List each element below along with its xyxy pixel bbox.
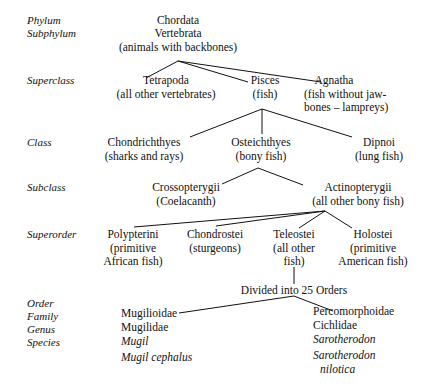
node-mugil-cephalus-species: Mugil cephalus [121,351,192,365]
node-vertebrata-note: (animals with backbones) [119,41,237,55]
node-vertebrata: Vertebrata [154,27,201,41]
node-teleostei-name: Teleostei [273,228,315,242]
node-mugil-genus: Mugil [121,335,148,349]
node-polypterini-note-1: (primitive [103,242,162,256]
node-polypterini-note-2: African fish) [103,255,162,269]
node-polypterini-name: Polypterini [103,228,162,242]
node-actinopterygii: Actinopterygii (all other bony fish) [312,181,404,208]
node-percomorphoidae: Percomorphoidae [313,305,394,319]
edge-actinopterygii-to-polypterini [134,211,325,227]
node-sarotherodon-nilotica-line-1: Sarotherodon [313,349,375,363]
node-crossopterygii-name: Crossopterygii [152,181,220,195]
node-mugilidae: Mugilidae [121,321,168,335]
node-chordata: Chordata [157,14,199,28]
node-dipnoi: Dipnoi (lung fish) [355,136,403,163]
edge-actinopterygii-to-holostei [325,211,352,228]
node-sarotherodon-nilotica-line-2: nilotica [313,363,375,377]
rank-label-class: Class [27,136,51,149]
node-divided-into-orders: Divided into 25 Orders [241,284,347,298]
node-tetrapoda: Tetrapoda (all other vertebrates) [117,74,216,101]
node-teleostei-note-2: fish) [273,255,315,269]
edge-actinopterygii-to-teleostei [299,211,325,228]
node-mugilioidae: Mugilioidae [121,307,177,321]
rank-label-superclass: Superclass [27,74,74,87]
rank-label-family: Family [27,310,58,323]
node-tetrapoda-note: (all other vertebrates) [117,88,216,102]
node-teleostei-note-1: (all other [273,242,315,256]
node-osteichthyes: Osteichthyes (bony fish) [231,136,290,163]
node-holostei: Holostei (primitive American fish) [338,228,407,269]
taxonomy-diagram: Phylum Subphylum Superclass Class Subcla… [0,0,423,386]
node-tetrapoda-name: Tetrapoda [117,74,216,88]
node-cichlidae: Cichlidae [313,319,357,333]
node-osteichthyes-name: Osteichthyes [231,136,290,150]
edge-pisces-to-chondrichthyes [190,109,262,137]
node-crossopterygii-note: (Coelacanth) [152,195,220,209]
node-chondrostei-name: Chondrostei [187,228,243,242]
node-pisces: Pisces (fish) [251,74,280,101]
node-osteichthyes-note: (bony fish) [231,150,290,164]
node-holostei-note-1: (primitive [338,242,407,256]
node-chondrostei: Chondrostei (sturgeons) [187,228,243,255]
edge-divided-to-mugil_order [179,296,294,313]
rank-label-subphylum: Subphylum [27,27,76,40]
node-dipnoi-name: Dipnoi [355,136,403,150]
node-sarotherodon-genus: Sarotherodon [313,333,375,347]
node-pisces-note: (fish) [251,88,280,102]
node-actinopterygii-name: Actinopterygii [312,181,404,195]
edge-osteichthyes-to-actinopterygii [258,168,303,185]
node-agnatha-note-2: bones – lampreys) [304,101,388,115]
node-crossopterygii: Crossopterygii (Coelacanth) [152,181,220,208]
node-holostei-name: Holostei [338,228,407,242]
rank-label-genus: Genus [27,323,55,336]
node-agnatha-name: Agnatha [304,74,364,88]
node-teleostei: Teleostei (all other fish) [273,228,315,269]
rank-label-species: Species [27,336,60,349]
node-pisces-name: Pisces [251,74,280,88]
node-dipnoi-note: (lung fish) [355,150,403,164]
edge-osteichthyes-to-crossopterygii [222,168,258,184]
node-agnatha-note-1: (fish without jaw- [304,88,388,102]
node-agnatha: Agnatha (fish without jaw- bones – lampr… [304,74,388,115]
node-sarotherodon-nilotica-species: Sarotherodon nilotica [313,349,375,376]
node-polypterini: Polypterini (primitive African fish) [103,228,162,269]
rank-label-order: Order [27,297,53,310]
node-chondrostei-note: (sturgeons) [187,242,243,256]
node-chondrichthyes-note: (sharks and rays) [105,150,184,164]
node-actinopterygii-note: (all other bony fish) [312,195,404,209]
node-holostei-note-2: American fish) [338,255,407,269]
node-chondrichthyes-name: Chondrichthyes [105,136,184,150]
node-chondrichthyes: Chondrichthyes (sharks and rays) [105,136,184,163]
rank-label-superorder: Superorder [27,228,76,241]
edge-actinopterygii-to-chondrostei [216,211,325,226]
rank-label-phylum: Phylum [27,14,61,27]
rank-label-subclass: Subclass [27,181,66,194]
